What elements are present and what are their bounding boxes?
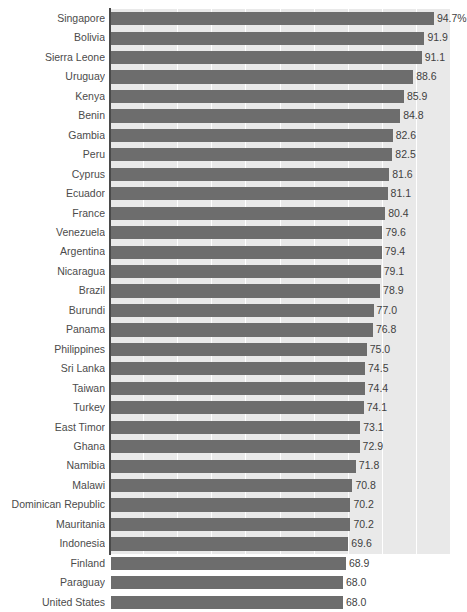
category-label: Bolivia [0,28,105,47]
bar-track: 70.8 [111,476,451,495]
bar-row: Dominican Republic70.2 [0,495,461,514]
category-label: Finland [0,554,105,573]
category-label: Kenya [0,87,105,106]
bar-value-label: 79.6 [382,223,405,242]
bar [111,207,385,220]
bar-row: Brazil78.9 [0,281,461,300]
bar-value-label: 91.1 [422,48,445,67]
bar [111,401,364,414]
bar-row: Nicaragua79.1 [0,262,461,281]
bar-value-label: 88.6 [413,67,436,86]
bar-value-label: 81.1 [388,184,411,203]
category-label: Singapore [0,9,105,28]
bar [111,576,343,589]
bar-value-label: 79.1 [381,262,404,281]
bar [111,343,367,356]
bar [111,518,350,531]
bar-track: 69.6 [111,534,451,553]
bar-rows: Singapore94.7%Bolivia91.9Sierra Leone91.… [0,9,461,554]
category-label: Philippines [0,340,105,359]
category-label: Gambia [0,126,105,145]
bar-track: 74.1 [111,398,451,417]
bar-track: 74.5 [111,359,451,378]
bar [111,246,382,259]
bar-track: 68.9 [111,554,451,573]
bar-row: Taiwan74.4 [0,379,461,398]
bar [111,187,388,200]
bar [111,596,343,609]
bar [111,498,350,511]
bar-row: Burundi77.0 [0,301,461,320]
bar-row: Gambia82.6 [0,126,461,145]
bar-value-label: 91.9 [424,28,447,47]
chart-title-cropped [0,0,461,6]
bar-track: 79.6 [111,223,451,242]
bar [111,382,365,395]
bar-value-label: 82.6 [393,126,416,145]
bar [111,51,422,64]
bar [111,304,374,317]
category-label: Burundi [0,301,105,320]
bar-row: Mauritania70.2 [0,515,461,534]
category-label: Brazil [0,281,105,300]
bar-row: Namibia71.8 [0,456,461,475]
bar-value-label: 74.1 [364,398,387,417]
bar-track: 91.9 [111,28,451,47]
bar-value-label: 78.9 [380,281,403,300]
category-label: Malawi [0,476,105,495]
bar-row: Ghana72.9 [0,437,461,456]
bar-track: 72.9 [111,437,451,456]
bar-track: 88.6 [111,67,451,86]
category-label: Taiwan [0,379,105,398]
bar-value-label: 68.0 [343,593,366,612]
category-label: Ghana [0,437,105,456]
bar-row: Turkey74.1 [0,398,461,417]
bar-track: 79.1 [111,262,451,281]
bar-value-label: 79.4 [382,242,405,261]
category-label: Dominican Republic [0,495,105,514]
bar-value-label: 73.1 [360,418,383,437]
bar [111,168,389,181]
bar [111,32,424,45]
bar [111,479,352,492]
bar-value-label: 70.2 [350,515,373,534]
bar [111,12,434,25]
bar [111,421,360,434]
bar [111,460,356,473]
bar [111,129,393,142]
bar-value-label: 72.9 [360,437,383,456]
bar-row: Singapore94.7% [0,9,461,28]
bar-row: Venezuela79.6 [0,223,461,242]
bar-value-label: 94.7% [434,9,467,28]
category-label: Mauritania [0,515,105,534]
bar-row: Sierra Leone91.1 [0,48,461,67]
bar-row: Malawi70.8 [0,476,461,495]
category-label: Nicaragua [0,262,105,281]
bar-value-label: 69.6 [348,534,371,553]
bar-value-label: 76.8 [373,320,396,339]
category-label: Namibia [0,456,105,475]
category-label: Venezuela [0,223,105,242]
bar [111,109,400,122]
bar-value-label: 74.4 [365,379,388,398]
bar-value-label: 82.5 [392,145,415,164]
bar-value-label: 68.9 [346,554,369,573]
bar [111,323,373,336]
bar-track: 68.0 [111,573,451,592]
bar-track: 84.8 [111,106,451,125]
bar-track: 82.6 [111,126,451,145]
category-label: Sierra Leone [0,48,105,67]
category-label: Uruguay [0,67,105,86]
bar-value-label: 70.2 [350,495,373,514]
bar-value-label: 85.9 [404,87,427,106]
bar-row: Ecuador81.1 [0,184,461,203]
bar-row: Philippines75.0 [0,340,461,359]
bar-track: 85.9 [111,87,451,106]
bar-value-label: 71.8 [356,456,379,475]
bar-row: East Timor73.1 [0,418,461,437]
category-label: Panama [0,320,105,339]
bar-track: 70.2 [111,495,451,514]
bar-track: 81.1 [111,184,451,203]
category-label: Argentina [0,242,105,261]
